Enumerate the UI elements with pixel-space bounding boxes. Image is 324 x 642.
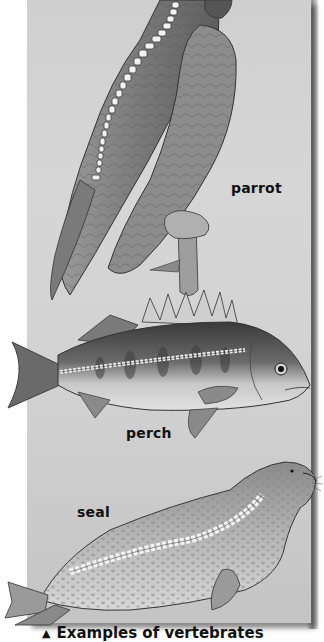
parrot-drawing bbox=[51, 0, 237, 300]
perch-drawing bbox=[8, 290, 310, 438]
label-parrot: parrot bbox=[231, 180, 282, 196]
label-perch: perch bbox=[126, 425, 172, 441]
seal-drawing bbox=[5, 462, 323, 625]
caption-marker-icon: ▲ bbox=[42, 627, 50, 640]
figure-caption: ▲Examples of vertebrates bbox=[42, 624, 264, 642]
caption-text: Examples of vertebrates bbox=[56, 624, 263, 642]
label-seal: seal bbox=[77, 504, 110, 520]
